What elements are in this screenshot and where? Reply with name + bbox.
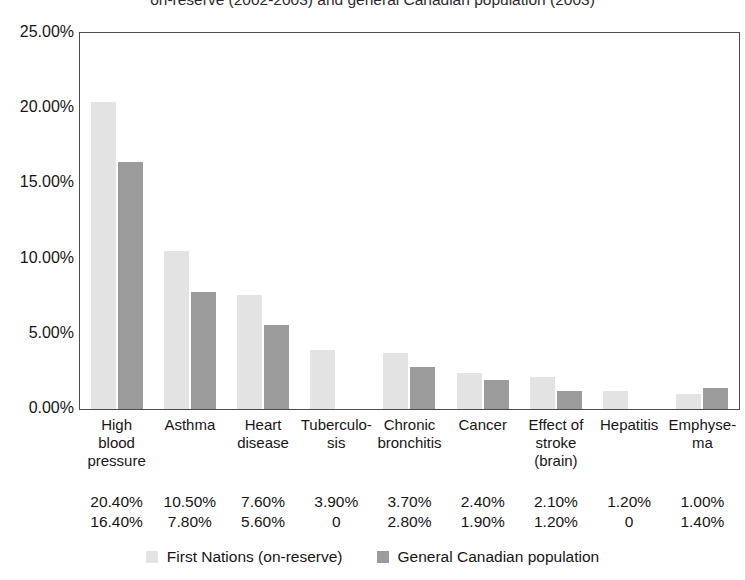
chart-container: on-reserve (2002-2003) and general Canad… bbox=[0, 0, 745, 580]
y-axis-tick-label: 25.00% bbox=[0, 24, 74, 40]
x-axis-category-labels: HighbloodpressureAsthmaHeartdiseaseTuber… bbox=[80, 416, 739, 490]
bar-first-nations bbox=[310, 350, 335, 409]
bar-first-nations bbox=[530, 377, 555, 409]
x-axis-label-line: blood bbox=[74, 434, 159, 452]
bar-group bbox=[153, 33, 226, 409]
bar-general-canadian bbox=[703, 388, 728, 409]
x-axis-label-line: (brain) bbox=[513, 452, 598, 470]
bar-first-nations bbox=[457, 373, 482, 409]
bar-general-canadian bbox=[191, 292, 216, 409]
y-axis-tick-label: 5.00% bbox=[0, 325, 74, 341]
bar-general-canadian bbox=[557, 391, 582, 409]
bar-group bbox=[446, 33, 519, 409]
bar-first-nations bbox=[91, 102, 116, 409]
legend-swatch-icon bbox=[377, 551, 389, 563]
bar-first-nations bbox=[164, 251, 189, 409]
data-value-cell: 1.00% bbox=[660, 492, 745, 512]
legend-label: General Canadian population bbox=[398, 548, 600, 566]
x-axis-label-line: bronchitis bbox=[367, 434, 452, 452]
chart-title: on-reserve (2002-2003) and general Canad… bbox=[0, 0, 745, 9]
chart-legend: First Nations (on-reserve)General Canadi… bbox=[0, 548, 745, 566]
bar-general-canadian bbox=[410, 367, 435, 409]
x-axis-label-line: Emphyse- bbox=[660, 416, 745, 434]
bar-group bbox=[226, 33, 299, 409]
x-axis-label: Emphyse-ma bbox=[660, 416, 745, 452]
x-axis-label-line: ma bbox=[660, 434, 745, 452]
y-axis: 25.00%20.00%15.00%10.00%5.00%0.00% bbox=[0, 32, 74, 410]
bar-group bbox=[519, 33, 592, 409]
bar-first-nations bbox=[603, 391, 628, 409]
data-value-table: 20.40%10.50%7.60%3.90%3.70%2.40%2.10%1.2… bbox=[80, 492, 739, 534]
legend-swatch-icon bbox=[146, 551, 158, 563]
y-axis-tick-label: 15.00% bbox=[0, 174, 74, 190]
bar-group bbox=[593, 33, 666, 409]
bar-first-nations bbox=[237, 295, 262, 409]
bar-general-canadian bbox=[118, 162, 143, 409]
y-axis-tick-label: 20.00% bbox=[0, 99, 74, 115]
bar-general-canadian bbox=[484, 380, 509, 409]
legend-label: First Nations (on-reserve) bbox=[167, 548, 343, 566]
y-axis-tick-label: 10.00% bbox=[0, 250, 74, 266]
bar-group bbox=[300, 33, 373, 409]
legend-item: General Canadian population bbox=[377, 548, 600, 566]
bar-group bbox=[80, 33, 153, 409]
legend-item: First Nations (on-reserve) bbox=[146, 548, 343, 566]
bar-first-nations bbox=[383, 353, 408, 409]
x-axis-label-line: stroke bbox=[513, 434, 598, 452]
y-axis-tick-label: 0.00% bbox=[0, 400, 74, 416]
bar-first-nations bbox=[676, 394, 701, 409]
bar-general-canadian bbox=[264, 325, 289, 409]
x-axis-label-line: pressure bbox=[74, 452, 159, 470]
data-value-cell: 1.40% bbox=[660, 512, 745, 532]
bars-layer bbox=[80, 33, 739, 409]
bar-group bbox=[666, 33, 739, 409]
bar-group bbox=[373, 33, 446, 409]
